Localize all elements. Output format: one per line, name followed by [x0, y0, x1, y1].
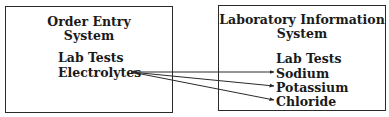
lis-item-sodium: Sodium: [276, 67, 329, 81]
order-entry-title-line1: Order Entry: [6, 15, 172, 29]
order-entry-item-electrolytes: Electrolytes: [58, 66, 141, 80]
lis-lab-tests-heading: Lab Tests: [276, 52, 342, 66]
lis-item-chloride: Chloride: [276, 95, 336, 109]
order-entry-lab-tests-heading: Lab Tests: [58, 51, 124, 65]
lis-item-potassium: Potassium: [276, 81, 348, 95]
order-entry-title: Order Entry System: [6, 15, 172, 43]
laboratory-information-system-box: Laboratory Information System Lab Tests …: [218, 5, 386, 111]
lis-title: Laboratory Information System: [219, 13, 385, 41]
order-entry-title-line2: System: [6, 29, 172, 43]
lis-title-line1: Laboratory Information: [219, 13, 385, 27]
order-entry-system-box: Order Entry System Lab Tests Electrolyte…: [5, 6, 173, 113]
lis-title-line2: System: [219, 27, 385, 41]
